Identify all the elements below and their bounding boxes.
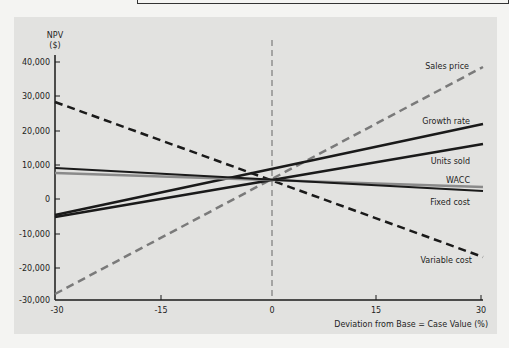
- y-tick-label: -30,000: [19, 296, 50, 305]
- y-tick-label: 0: [45, 195, 50, 204]
- label-wacc: WACC: [446, 176, 470, 185]
- label-variable-cost: Variable cost: [420, 256, 472, 265]
- y-axis-title-unit: ($): [49, 41, 60, 50]
- series-fixed-cost: [55, 168, 483, 191]
- label-sales-price: Sales price: [425, 62, 469, 71]
- label-units-sold: Units sold: [431, 157, 470, 166]
- label-growth-rate: Growth rate: [422, 117, 470, 126]
- label-fixed-cost: Fixed cost: [430, 198, 470, 207]
- y-tick-label: 30,000: [22, 92, 50, 101]
- y-tick-label: 20,000: [22, 127, 50, 136]
- y-axis-title-npv: NPV: [47, 31, 64, 40]
- x-tick-label: -15: [154, 306, 167, 315]
- x-tick-label: 15: [371, 306, 381, 315]
- y-tick-label: -20,000: [19, 264, 50, 273]
- x-tick-label: 0: [269, 306, 274, 315]
- series-growth-rate: [55, 124, 483, 215]
- y-tick-label: -10,000: [19, 230, 50, 239]
- x-tick-label: 30: [476, 306, 486, 315]
- sensitivity-chart: 40,000 30,000 20,000 10,000 0 -10,000 -2…: [0, 0, 509, 348]
- x-axis-title: Deviation from Base = Case Value (%): [334, 320, 488, 329]
- y-tick-label: 10,000: [22, 161, 50, 170]
- y-tick-label: 40,000: [22, 58, 50, 67]
- x-tick-label: -30: [50, 306, 63, 315]
